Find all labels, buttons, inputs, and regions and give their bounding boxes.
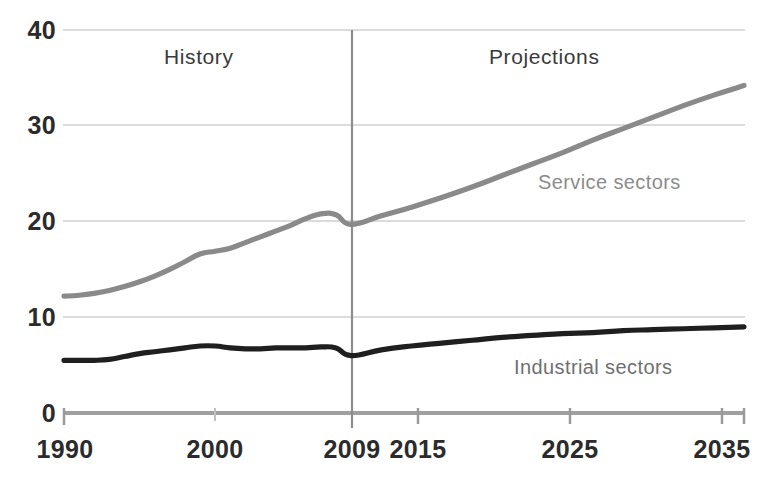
y-axis-label-30: 30 [2,113,56,138]
y-axis-label-0: 0 [2,401,56,426]
x-axis-label-2035: 2035 [677,437,767,462]
industrial-sectors-label: Industrial sectors [514,357,672,377]
chart-plot-area [0,0,772,481]
projections-label: Projections [489,46,599,67]
x-axis-label-2025: 2025 [525,437,615,462]
x-axis-label-2015: 2015 [373,437,463,462]
y-axis-label-20: 20 [2,209,56,234]
y-axis-label-40: 40 [2,18,56,43]
x-axis-label-2000: 2000 [170,437,260,462]
chart-container: 40 30 20 10 0 1990 2000 2009 2015 2025 2… [0,0,772,481]
y-axis-label-10: 10 [2,305,56,330]
service-sectors-label: Service sectors [538,172,681,192]
x-axis-ticks [64,408,744,425]
x-axis-label-1990: 1990 [20,437,110,462]
history-label: History [164,46,234,67]
